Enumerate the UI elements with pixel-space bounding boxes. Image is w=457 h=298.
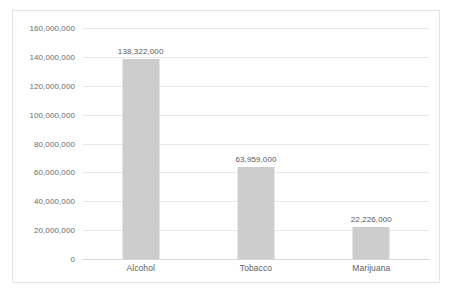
bar[interactable]: [353, 227, 390, 259]
x-axis-category-labels: AlcoholTobaccoMarijuana: [83, 263, 429, 279]
bar[interactable]: [122, 59, 159, 259]
bar-value-label: 22,226,000: [351, 215, 392, 224]
bar-value-label: 63,959,000: [235, 155, 276, 164]
x-axis-category-label: Tobacco: [198, 263, 313, 273]
bar-group[interactable]: 138,322,000: [83, 28, 198, 259]
x-axis-category-label: Alcohol: [83, 263, 198, 273]
plot-area: 138,322,00063,959,00022,226,000: [83, 28, 429, 259]
y-axis-tick-label: 40,000,000: [34, 197, 75, 206]
bar-chart-figure: 020,000,00040,000,00060,000,00080,000,00…: [12, 10, 440, 283]
y-axis-tick-label: 140,000,000: [29, 52, 75, 61]
y-axis-tick-label: 160,000,000: [29, 24, 75, 33]
y-axis-tick-label: 0: [70, 255, 75, 264]
y-axis-tick-labels: 020,000,00040,000,00060,000,00080,000,00…: [13, 28, 75, 259]
x-axis-line: [83, 259, 429, 260]
bar-group[interactable]: 22,226,000: [314, 28, 429, 259]
bar-value-label: 138,322,000: [118, 47, 164, 56]
y-axis-tick-label: 20,000,000: [34, 226, 75, 235]
y-axis-tick-label: 120,000,000: [29, 81, 75, 90]
y-axis-tick-label: 100,000,000: [29, 110, 75, 119]
x-axis-category-label: Marijuana: [314, 263, 429, 273]
y-axis-tick-label: 60,000,000: [34, 168, 75, 177]
bar[interactable]: [237, 167, 274, 259]
bar-group[interactable]: 63,959,000: [198, 28, 313, 259]
y-axis-tick-label: 80,000,000: [34, 139, 75, 148]
